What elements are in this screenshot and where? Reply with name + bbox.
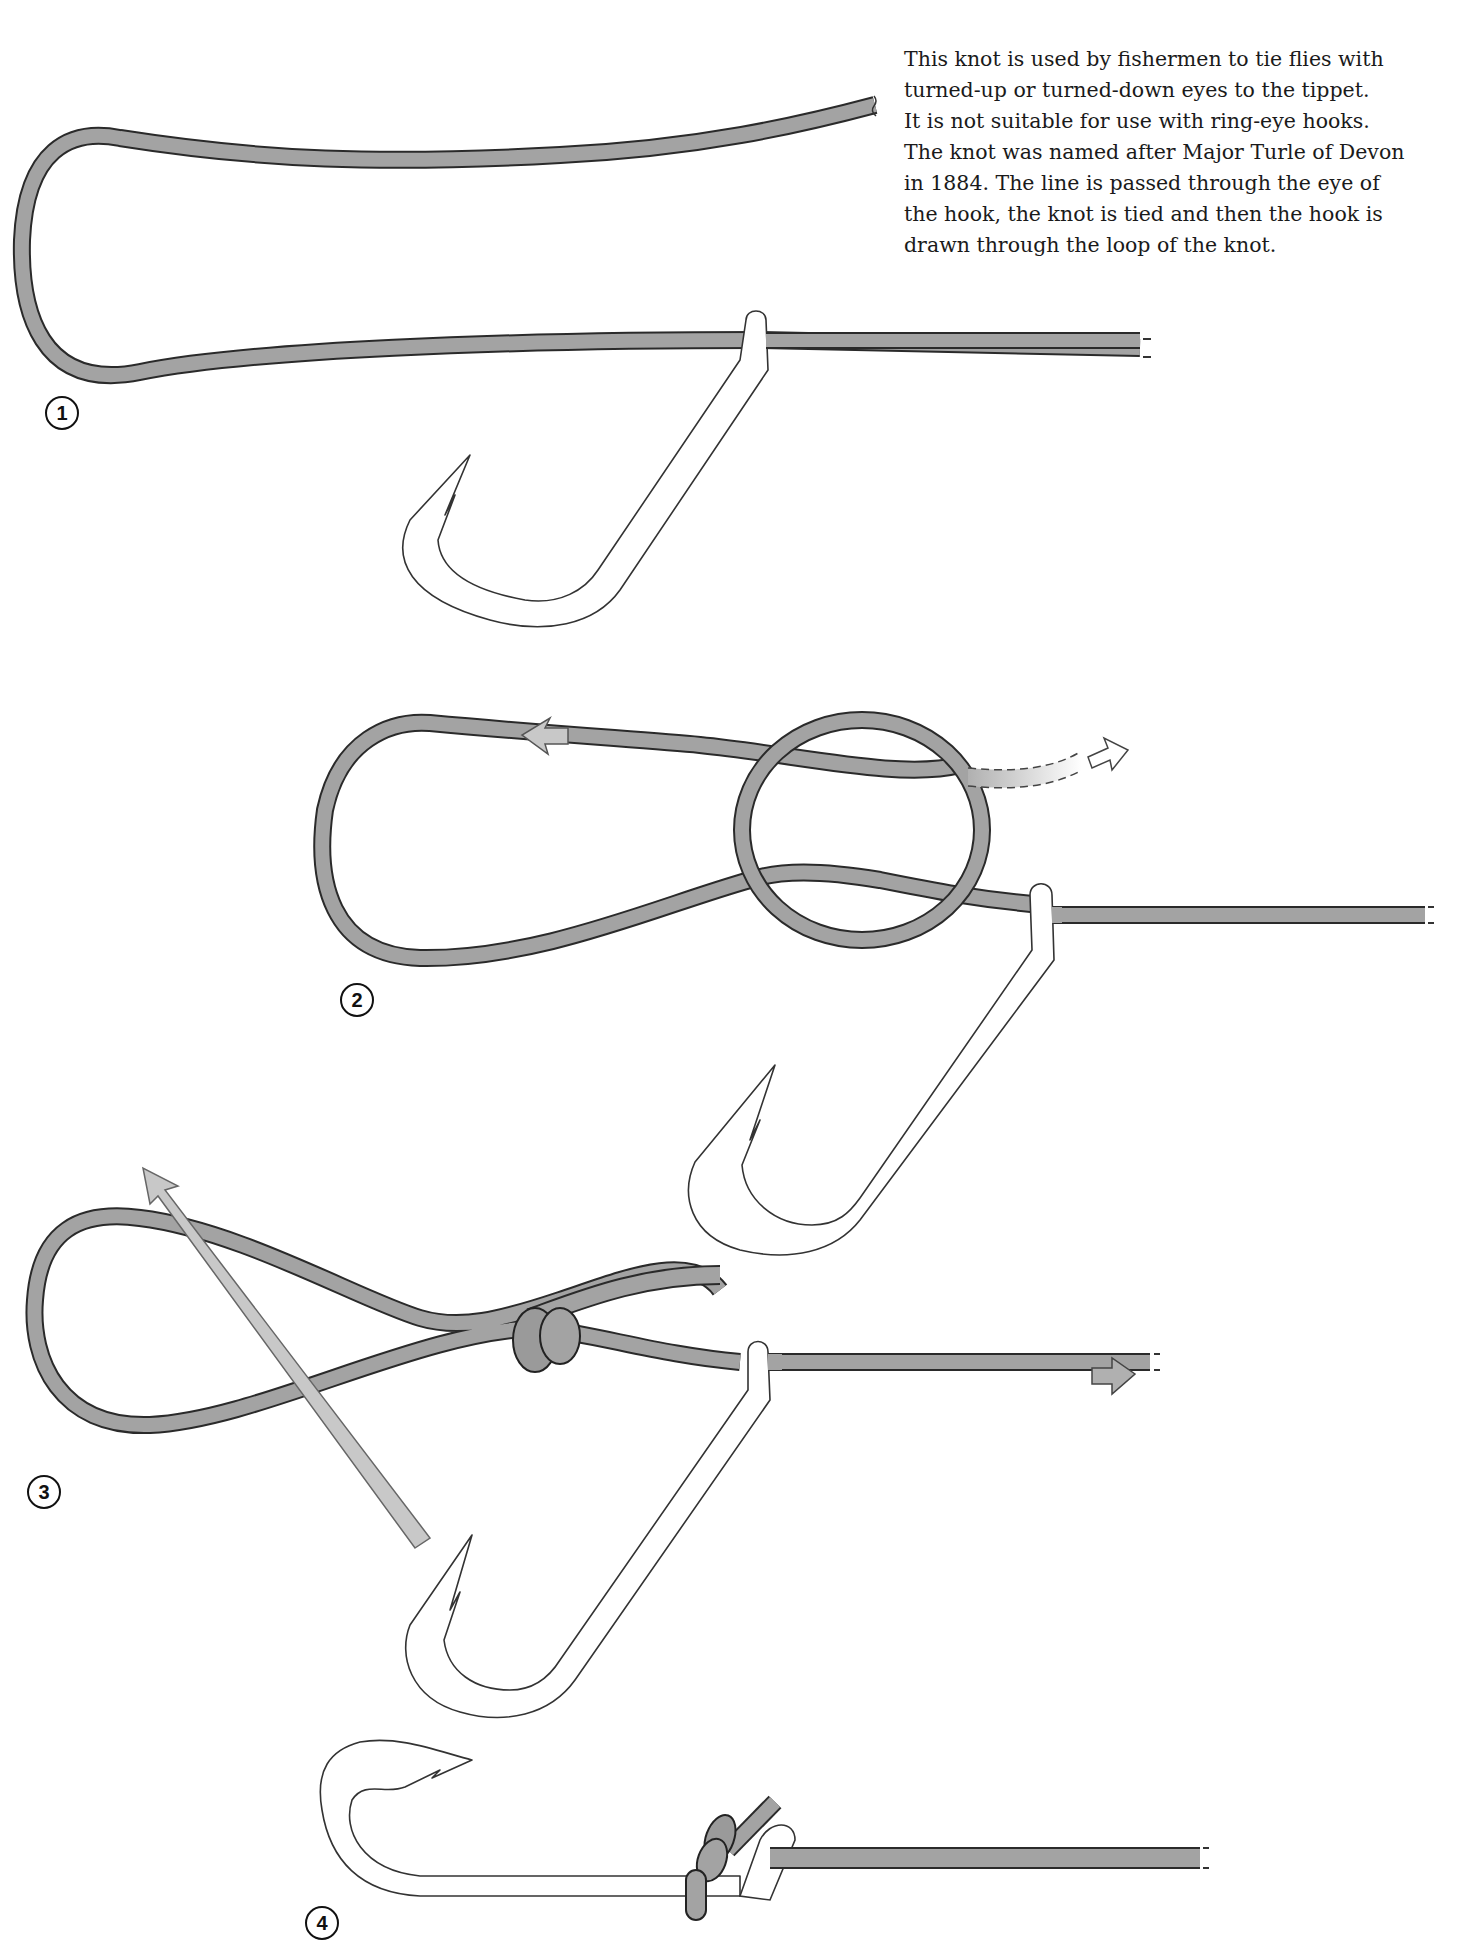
step-1-illustration — [22, 96, 1151, 627]
step-number-1: 1 — [45, 396, 79, 430]
step-3-illustration — [34, 1168, 1160, 1717]
step-number-2: 2 — [340, 983, 374, 1017]
step-2-illustration — [322, 718, 1434, 1255]
step-number-3: 3 — [27, 1475, 61, 1509]
knot-diagram-page: This knot is used by fishermen to tie fl… — [0, 0, 1479, 1948]
step-4-illustration — [320, 1740, 1209, 1920]
step-number-4: 4 — [305, 1906, 339, 1940]
knot-illustrations — [0, 0, 1479, 1948]
arrow-right-dashed-icon — [1088, 738, 1128, 770]
